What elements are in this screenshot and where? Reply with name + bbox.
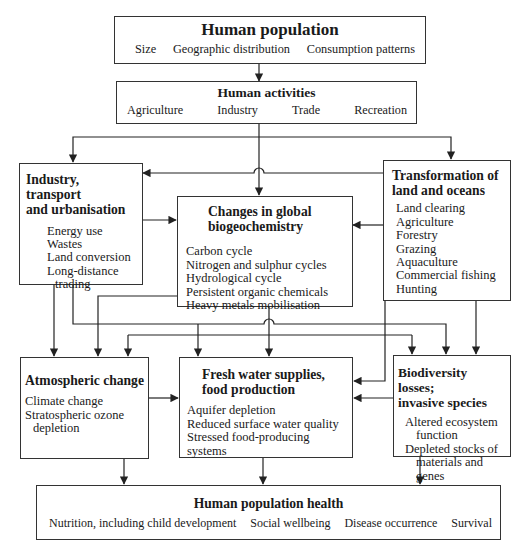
node-item: Trade: [292, 103, 320, 118]
node-item-list: Carbon cycle Nitrogen and sulphur cycles…: [186, 245, 344, 312]
node-industry-transport-urbanisation: Industry, transport and urbanisation Ene…: [19, 163, 143, 285]
node-item: Hunting: [396, 283, 502, 296]
node-item: Reduced surface water quality: [187, 418, 345, 431]
node-item: Hydrological cycle: [186, 272, 344, 285]
node-human-activities: Human activities Agriculture Industry Tr…: [116, 81, 417, 124]
node-item: function: [405, 429, 506, 442]
node-item: Land conversion: [47, 251, 136, 264]
node-item: Agriculture: [396, 216, 502, 229]
node-title: Industry, transport and urbanisation: [26, 172, 136, 218]
node-title-line: food production: [202, 382, 345, 397]
node-item: Survival: [451, 516, 492, 531]
node-item: Heavy metals mobilisation: [186, 299, 344, 312]
node-title-line: and urbanisation: [26, 202, 136, 217]
node-item: Industry: [217, 103, 258, 118]
node-title: Biodiversity losses; invasive species: [398, 365, 506, 410]
node-item-list: Altered ecosystem function Depleted stoc…: [398, 416, 506, 483]
node-title: Transformation of land and oceans: [392, 168, 502, 198]
edge-land-industry: [143, 168, 383, 173]
node-item: Carbon cycle: [186, 245, 344, 258]
edge-biogeochemistry-atmosphere: [98, 296, 177, 356]
node-item: Geographic distribution: [173, 42, 290, 57]
node-item-list: Land clearing Agriculture Forestry Grazi…: [392, 202, 502, 296]
node-item: depletion: [25, 422, 144, 435]
node-human-population-health: Human population health Nutrition, inclu…: [36, 485, 501, 540]
node-title-line: biogeochemistry: [208, 219, 344, 234]
node-title: Changes in global biogeochemistry: [186, 204, 344, 234]
node-transformation-land-oceans: Transformation of land and oceans Land c…: [383, 160, 511, 301]
node-item-list: Aquifer depletion Reduced surface water …: [187, 404, 345, 458]
node-title: Fresh water supplies, food production: [187, 367, 345, 397]
node-item: Forestry: [396, 229, 502, 242]
node-biodiversity-losses: Biodiversity losses; invasive species Al…: [393, 355, 511, 457]
node-item-list: Energy use Wastes Land conversion Long-d…: [26, 225, 136, 292]
node-item: Wastes: [47, 238, 136, 251]
node-item-list: Climate change Stratospheric ozone deple…: [25, 395, 144, 435]
node-title-line: Industry, transport: [26, 172, 136, 202]
node-title-line: invasive species: [398, 395, 506, 410]
node-item: Depleted stocks of: [405, 443, 506, 456]
node-global-biogeochemistry: Changes in global biogeochemistry Carbon…: [177, 196, 353, 307]
node-atmospheric-change: Atmospheric change Climate change Strato…: [20, 357, 149, 459]
node-title-line: Changes in global: [208, 204, 344, 219]
edge-activities-land: [259, 137, 451, 159]
node-title: Human population health: [37, 496, 500, 511]
edge-land-food: [354, 301, 385, 381]
node-title: Atmospheric change: [25, 373, 144, 388]
node-item: Climate change: [25, 395, 144, 408]
node-item: Consumption patterns: [307, 42, 415, 57]
node-title-line: Transformation of: [392, 168, 502, 183]
edge-activities-industry: [73, 137, 259, 162]
node-item: Stressed food-producing systems: [187, 431, 345, 458]
node-title-line: Fresh water supplies,: [202, 367, 345, 382]
node-item: Commercial fishing: [396, 269, 502, 282]
node-item: Land clearing: [396, 202, 502, 215]
node-item: Size: [135, 42, 156, 57]
node-item: Recreation: [354, 103, 407, 118]
node-title-line: land and oceans: [392, 183, 502, 198]
node-item: trading: [47, 278, 136, 291]
node-item: Nitrogen and sulphur cycles: [186, 259, 344, 272]
node-item: Aquifer depletion: [187, 404, 345, 417]
node-item: Disease occurrence: [344, 516, 437, 531]
node-item: materials and genes: [405, 456, 506, 483]
node-title: Human activities: [117, 85, 416, 100]
node-item: Stratospheric ozone: [25, 409, 144, 422]
node-title: Human population: [115, 20, 425, 39]
node-title-line: Biodiversity losses;: [398, 365, 506, 395]
node-item: Social wellbeing: [250, 516, 330, 531]
node-item: Long-distance: [47, 265, 136, 278]
node-item: Grazing: [396, 243, 502, 256]
node-item: Persistent organic chemicals: [186, 286, 344, 299]
node-item: Nutrition, including child development: [49, 516, 236, 531]
node-item: Aquaculture: [396, 256, 502, 269]
node-item: Altered ecosystem: [405, 416, 506, 429]
node-item: Energy use: [47, 225, 136, 238]
node-fresh-water-food-production: Fresh water supplies, food production Aq…: [179, 357, 353, 458]
node-human-population: Human population Size Geographic distrib…: [114, 16, 426, 64]
node-item: Agriculture: [127, 103, 183, 118]
